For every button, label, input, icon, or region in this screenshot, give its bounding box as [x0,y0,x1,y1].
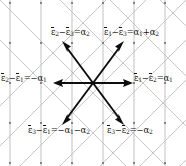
label-equals: = [130,125,137,135]
root-system-figure: ε2−ε3=α2 ε1−ε3=α1+α2 ε2−ε1=−α1 ε1−ε2=α1 … [0,0,186,166]
root-arrow-right [93,79,133,87]
label-alpha-2-sub: 2 [155,30,159,37]
label-minus: − [9,73,16,83]
label-epsilon-2: ε [16,73,20,83]
root-arrow-up-right [93,41,124,83]
label-sign: − [31,73,38,83]
root-label-left: ε2−ε1=−α1 [1,74,47,83]
label-alpha-sub: 1 [169,76,173,83]
label-alpha-sub: 2 [149,128,153,135]
label-minus: − [112,27,119,37]
label-epsilon-1: ε [28,125,32,135]
label-equals: = [24,73,31,83]
label-epsilon-1: ε [104,27,108,37]
label-alpha-sub: 2 [86,30,90,37]
label-epsilon-2: ε [43,125,47,135]
label-epsilon-1: ε [134,73,138,83]
label-epsilon-2: ε [119,27,123,37]
label-minus: − [36,125,43,135]
label-epsilon-1: ε [107,125,111,135]
label-sign: − [137,125,144,135]
root-label-down-left: ε3−ε1=−α1−α2 [28,126,90,135]
label-equals: = [51,125,58,135]
root-arrow-down-left [62,83,93,125]
label-minus: − [115,125,122,135]
label-rhs-minus: − [74,125,81,135]
label-sign: − [58,125,65,135]
label-epsilon-2: ε [122,125,126,135]
root-label-down-right: ε3−ε2=−α2 [107,126,153,135]
label-equals: = [74,27,81,37]
label-equals: = [157,73,164,83]
label-plus: + [143,27,150,37]
root-arrow-up-left [62,41,93,83]
root-label-right: ε1−ε2=α1 [134,74,173,83]
label-alpha-2-sub: 2 [86,128,90,135]
origin-dot [91,81,94,84]
label-epsilon-1: ε [1,73,5,83]
label-epsilon-2: ε [66,27,70,37]
root-arrow-left [53,79,93,87]
root-label-up-left: ε2−ε3=α2 [51,28,90,37]
label-epsilon-2: ε [149,73,153,83]
label-epsilon-1: ε [51,27,55,37]
label-minus: − [59,27,66,37]
label-equals: = [127,27,134,37]
root-arrow-down-right [93,83,124,125]
label-alpha-sub: 1 [43,76,47,83]
label-minus: − [142,73,149,83]
root-label-up-right: ε1−ε3=α1+α2 [104,28,159,37]
